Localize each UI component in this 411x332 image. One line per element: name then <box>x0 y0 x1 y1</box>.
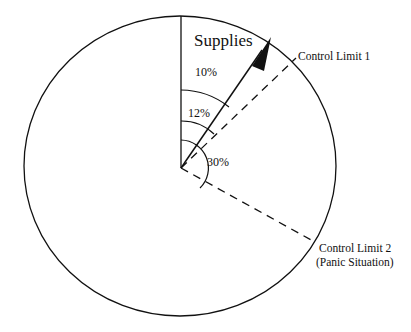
outer-circle <box>24 16 336 316</box>
control-limit-2-label: Control Limit 2 <box>319 242 391 254</box>
control-limit-2-line <box>181 168 313 241</box>
control-limit-1-label: Control Limit 1 <box>298 50 370 62</box>
panic-situation-label: (Panic Situation) <box>316 256 394 268</box>
angle-arc-10 <box>181 90 229 107</box>
supplies-gauge-diagram: Supplies 10% 12% 30% Control Limit 1 Con… <box>0 0 411 332</box>
arrow-head-icon <box>252 37 271 71</box>
supplies-label: Supplies <box>194 31 253 51</box>
angle-label-10: 10% <box>195 65 217 80</box>
angle-label-30: 30% <box>207 155 229 170</box>
angle-label-12: 12% <box>188 106 210 121</box>
